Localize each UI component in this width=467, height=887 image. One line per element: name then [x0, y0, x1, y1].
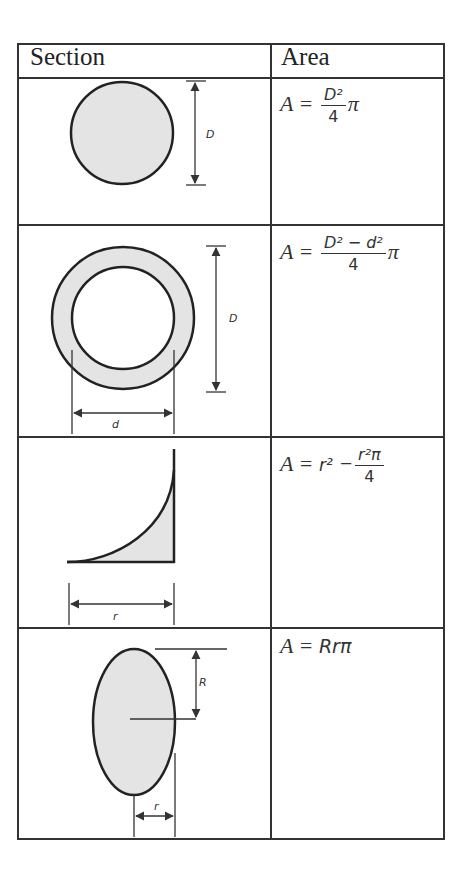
dimension-label-R: R [199, 676, 207, 689]
dimension-label-r: r [154, 800, 160, 813]
dimension-label-D: D [229, 312, 237, 325]
spandrel-figure: r [67, 449, 175, 625]
dimension-label-r: r [113, 610, 119, 623]
hollow-circle-figure: D d [52, 246, 237, 434]
dimension-label-d: d [112, 418, 120, 431]
section-figures: D D d r R r [0, 0, 467, 887]
inner-circle [72, 267, 174, 369]
solid-circle [71, 82, 173, 184]
ellipse [93, 649, 175, 795]
solid-circle-figure: D [71, 81, 214, 185]
dimension-label-D: D [206, 128, 214, 141]
ellipse-figure: R r [93, 649, 227, 837]
